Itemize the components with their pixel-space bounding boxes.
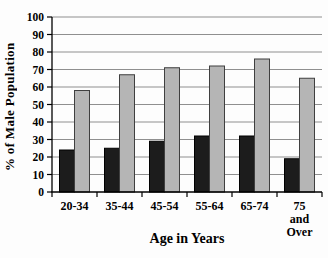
bar-gray-bars-20-34 (75, 91, 90, 193)
y-tick-label-30: 30 (33, 134, 45, 146)
chart-canvas: 010203040506070809010020-3435-4445-5455-… (0, 0, 328, 258)
x-category-label-20-34: 20-34 (61, 199, 89, 213)
bar-gray-bars-45-54 (165, 68, 180, 192)
bar-gray-bars-65-74 (255, 59, 270, 192)
x-category-label-75-and-Over-line1: 75 (294, 199, 306, 213)
bar-black-bars-45-54 (150, 141, 165, 192)
bar-gray-bars-75-and-Over (300, 78, 315, 192)
y-tick-label-90: 90 (33, 29, 45, 41)
bar-gray-bars-55-64 (210, 66, 225, 192)
x-category-label-65-74: 65-74 (241, 199, 269, 213)
y-tick-label-80: 80 (33, 46, 45, 58)
x-category-label-35-44: 35-44 (106, 199, 134, 213)
x-category-label-55-64: 55-64 (196, 199, 224, 213)
y-tick-label-100: 100 (27, 11, 45, 23)
bar-gray-bars-35-44 (120, 75, 135, 192)
y-axis-title: % of Male Population (2, 17, 18, 197)
x-category-label-45-54: 45-54 (151, 199, 179, 213)
x-axis-title: Age in Years (52, 231, 322, 247)
bar-black-bars-75-and-Over (285, 159, 300, 192)
bar-black-bars-65-74 (240, 136, 255, 192)
bar-black-bars-35-44 (105, 148, 120, 192)
x-category-label-75-and-Over-line2: and (290, 212, 310, 226)
y-tick-label-10: 10 (33, 169, 45, 181)
y-tick-label-60: 60 (33, 81, 45, 93)
y-tick-label-70: 70 (33, 64, 45, 76)
y-tick-label-40: 40 (33, 116, 45, 128)
bar-black-bars-55-64 (195, 136, 210, 192)
y-tick-label-50: 50 (33, 99, 45, 111)
bar-chart-figure: 010203040506070809010020-3435-4445-5455-… (0, 0, 328, 258)
bar-black-bars-20-34 (60, 150, 75, 192)
y-tick-label-0: 0 (38, 186, 44, 198)
y-tick-label-20: 20 (33, 151, 45, 163)
